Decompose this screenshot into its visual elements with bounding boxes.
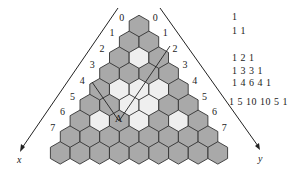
- y-axis-arrowhead-icon: [255, 143, 260, 150]
- pascal-row-0: 1: [232, 11, 238, 22]
- point-a-label: A: [115, 113, 123, 124]
- right-row-label: 7: [222, 122, 227, 133]
- left-row-label: 4: [80, 75, 85, 86]
- left-row-label: 1: [109, 27, 114, 38]
- right-row-label: 0: [153, 12, 158, 23]
- y-axis-label: y: [257, 153, 263, 164]
- pascal-row-5: 1 5 10 10 5 1: [229, 96, 288, 107]
- right-row-label: 5: [202, 91, 207, 102]
- left-row-label: 6: [60, 106, 65, 117]
- pascal-row-3: 1 3 3 1: [232, 65, 263, 76]
- left-row-label: 0: [119, 12, 124, 23]
- hex-grid: [50, 15, 227, 164]
- right-row-label: 2: [173, 43, 178, 54]
- pascal-row-4: 1 4 6 4 1: [232, 77, 272, 88]
- pascal-row-2: 1 2 1: [232, 52, 255, 63]
- right-row-label: 3: [182, 59, 187, 70]
- right-row-label: 1: [163, 27, 168, 38]
- x-axis-label: x: [16, 154, 22, 165]
- right-row-label: 6: [212, 106, 217, 117]
- left-row-label: 7: [50, 122, 55, 133]
- left-row-label: 2: [100, 43, 105, 54]
- left-row-label: 5: [70, 91, 75, 102]
- right-row-label: 4: [192, 75, 197, 86]
- left-row-label: 3: [90, 59, 95, 70]
- pascal-row-1: 1 1: [232, 25, 246, 36]
